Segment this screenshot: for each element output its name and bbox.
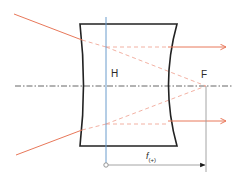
- incoming-ray-bottom: [16, 130, 82, 155]
- principal-plane-origin-marker: [104, 163, 108, 167]
- focal-length-subscript: (+): [149, 157, 157, 163]
- incoming-ray-top: [14, 14, 82, 40]
- focal-length-label: f(+): [146, 152, 156, 163]
- virtual-ray-bottom-in-lens: [82, 124, 106, 130]
- virtual-ray-bottom-to-focus: [106, 86, 206, 124]
- lens-outline: [80, 24, 177, 146]
- virtual-rays: [82, 40, 206, 130]
- lens-ray-diagram: H F f(+): [0, 0, 240, 181]
- focal-point-label: F: [201, 70, 207, 80]
- principal-plane-label: H: [111, 69, 118, 79]
- virtual-ray-top-to-focus: [106, 47, 206, 86]
- virtual-ray-top-in-lens: [82, 40, 106, 47]
- diagram-canvas: [0, 0, 240, 181]
